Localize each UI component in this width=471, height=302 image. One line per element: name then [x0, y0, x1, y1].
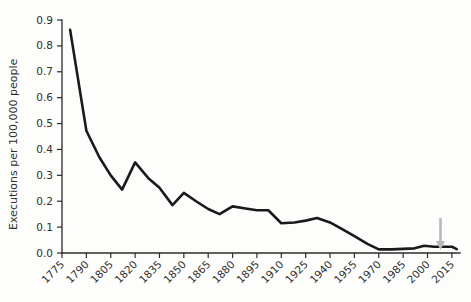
- y-tick-label: 0.1: [36, 221, 53, 233]
- chart-canvas: Executions per 100,000 people 0.00.10.20…: [0, 0, 471, 302]
- y-tick-label: 0.5: [36, 117, 53, 129]
- x-tick-label: 1955: [331, 258, 358, 285]
- x-tick-label: 1910: [258, 258, 285, 285]
- y-tick-label: 0.9: [36, 14, 53, 26]
- y-tick-label: 0.2: [36, 195, 53, 207]
- y-tick-label: 0.4: [36, 143, 53, 155]
- data-series-line: [70, 30, 457, 250]
- y-axis-title: Executions per 100,000 people: [7, 59, 20, 230]
- chart-figure: Executions per 100,000 people 0.00.10.20…: [0, 0, 471, 302]
- x-tick-label: 1880: [210, 258, 237, 285]
- x-tick-label: 2000: [405, 258, 432, 285]
- y-tick-label: 0.6: [36, 91, 53, 103]
- y-tick-label: 0.0: [36, 247, 53, 259]
- x-tick-label: 1925: [283, 258, 310, 285]
- x-tick-label: 1940: [307, 258, 334, 285]
- x-axis-ticks: 1775179018051820183518501865188018951910…: [39, 253, 456, 285]
- y-tick-label: 0.3: [36, 169, 53, 181]
- x-tick-label: 1790: [63, 258, 90, 285]
- chart-annotations: [436, 218, 445, 250]
- x-tick-label: 1775: [39, 258, 66, 285]
- x-tick-label: 2015: [429, 258, 456, 285]
- x-tick-label: 1820: [112, 258, 139, 285]
- x-tick-label: 1895: [234, 258, 261, 285]
- x-tick-label: 1865: [185, 258, 212, 285]
- x-tick-label: 1850: [161, 258, 188, 285]
- x-tick-label: 1835: [136, 258, 163, 285]
- y-tick-label: 0.7: [36, 65, 53, 77]
- x-tick-label: 1805: [88, 258, 115, 285]
- y-tick-label: 0.8: [36, 39, 53, 51]
- y-axis-label-group: Executions per 100,000 people: [7, 59, 20, 230]
- y-axis-ticks: 0.00.10.20.30.40.50.60.70.80.9: [36, 14, 62, 259]
- downward-arrow-marker: [436, 218, 445, 250]
- x-tick-label: 1970: [356, 258, 383, 285]
- x-tick-label: 1985: [380, 258, 407, 285]
